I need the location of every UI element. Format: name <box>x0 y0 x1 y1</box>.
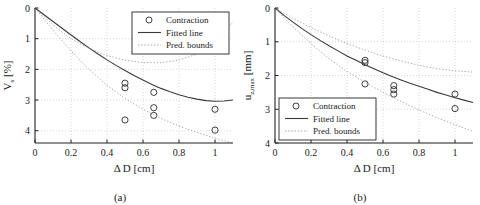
fitted-line <box>275 8 473 103</box>
legend-label: Fitted line <box>166 28 203 38</box>
pred-bounds-line <box>275 8 473 72</box>
data-point-circle <box>212 127 218 133</box>
x-axis-label: Δ D [cm] <box>114 162 155 174</box>
y-tick-label: 4 <box>265 138 270 149</box>
plot-area: 00.20.40.60.8101234Δ D [cm]uz,max [mm]Co… <box>241 3 473 174</box>
x-tick-label: 0.8 <box>413 147 426 158</box>
legend-label: Fitted line <box>313 114 350 124</box>
data-point-circle <box>151 105 157 111</box>
x-tick-label: 0.4 <box>101 147 114 158</box>
y-axis-label-text: uz,max [mm] <box>241 51 256 101</box>
panel-b-caption: (b) <box>240 191 480 203</box>
x-tick-label: 1 <box>453 147 458 158</box>
y-axis-label: Vs [%] <box>1 61 16 91</box>
x-tick-label: 1 <box>213 147 218 158</box>
legend: ContractionFitted linePred. bounds <box>279 98 376 140</box>
y-tick-label: 2 <box>265 70 270 81</box>
y-axis-label: uz,max [mm] <box>241 51 256 101</box>
x-tick-label: 0.6 <box>137 147 150 158</box>
panel-b: 00.20.40.60.8101234Δ D [cm]uz,max [mm]Co… <box>240 0 480 205</box>
data-point-circle <box>391 91 397 97</box>
x-tick-label: 0.4 <box>341 147 354 158</box>
x-tick-label: 0.2 <box>305 147 318 158</box>
data-point-circle <box>151 89 157 95</box>
panel-a-caption: (a) <box>0 191 240 203</box>
y-axis-label-subscript: z,max <box>248 77 256 94</box>
chart-a: 00.20.40.60.8101234Δ D [cm]Vs [%]Contrac… <box>0 0 240 178</box>
y-tick-label: 1 <box>25 33 30 44</box>
legend: ContractionFitted linePred. bounds <box>132 12 229 54</box>
y-tick-label: 4 <box>25 125 30 136</box>
legend-label: Pred. bounds <box>166 40 213 50</box>
x-tick-label: 0 <box>273 147 278 158</box>
x-tick-label: 0.2 <box>65 147 78 158</box>
data-point-circle <box>122 85 128 91</box>
data-point-circle <box>122 117 128 123</box>
y-axis-label-unit: [%] <box>1 61 13 80</box>
chart-b: 00.20.40.60.8101234Δ D [cm]uz,max [mm]Co… <box>240 0 480 178</box>
y-tick-label: 1 <box>265 36 270 47</box>
legend-label: Contraction <box>313 101 356 111</box>
y-tick-label: 3 <box>25 95 30 106</box>
figure-container: 00.20.40.60.8101234Δ D [cm]Vs [%]Contrac… <box>0 0 480 205</box>
y-axis-label-unit: [mm] <box>241 51 253 78</box>
x-tick-label: 0.6 <box>377 147 390 158</box>
y-tick-label: 2 <box>25 64 30 75</box>
data-point-circle <box>151 112 157 118</box>
x-axis-label: Δ D [cm] <box>354 162 395 174</box>
y-tick-label: 0 <box>265 3 270 14</box>
y-axis-label-text: Vs [%] <box>1 61 16 91</box>
data-point-circle <box>452 91 458 97</box>
legend-label: Pred. bounds <box>313 126 360 136</box>
x-tick-label: 0.8 <box>173 147 186 158</box>
y-tick-label: 0 <box>25 3 30 14</box>
legend-label: Contraction <box>166 15 209 25</box>
y-axis-label-main: V <box>1 82 13 90</box>
y-tick-label: 3 <box>265 104 270 115</box>
data-point-circle <box>362 81 368 87</box>
plot-area: 00.20.40.60.8101234Δ D [cm]Vs [%]Contrac… <box>1 3 233 174</box>
x-tick-label: 0 <box>33 147 38 158</box>
panel-a: 00.20.40.60.8101234Δ D [cm]Vs [%]Contrac… <box>0 0 240 205</box>
